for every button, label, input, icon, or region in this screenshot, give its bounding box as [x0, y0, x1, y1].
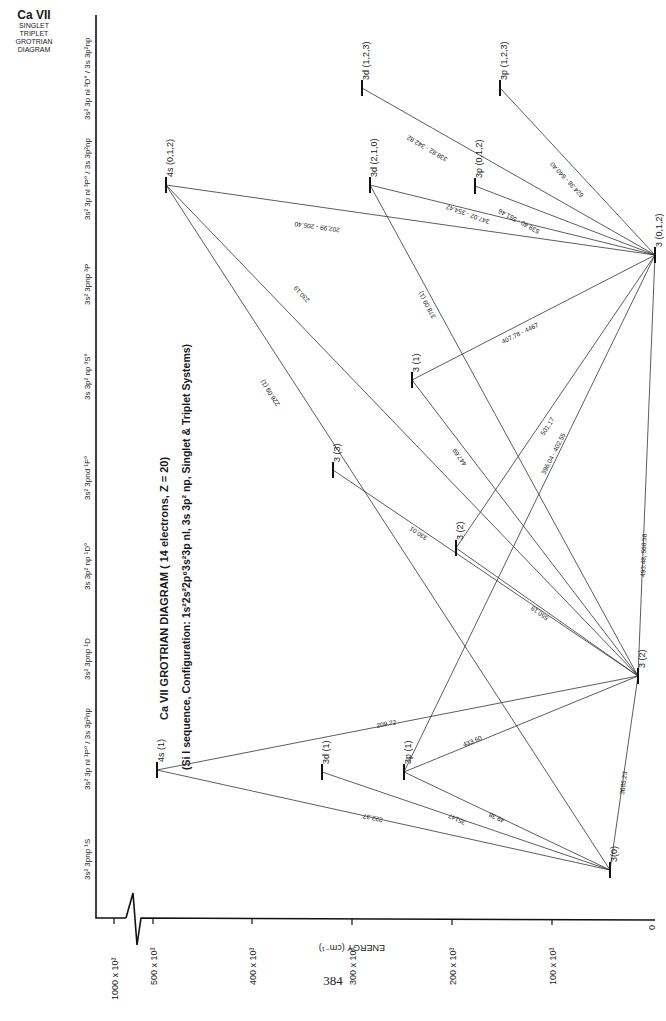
transition-label: 226.09 (1): [259, 378, 282, 407]
transition-label: 347.02 - 354.42: [445, 203, 491, 225]
level-label: 3d (2,1,0): [369, 138, 379, 177]
grotrian-diagram: 1000 x 10³ 500 x 10³ 400 x 10³ 300 x 10³…: [0, 0, 666, 1021]
column-header: 3s² 3pnp ¹D: [83, 638, 92, 680]
tick-0: 0: [647, 925, 657, 930]
level-label: 3p (1,2,3): [499, 41, 509, 80]
level-label: 3 (1): [411, 353, 421, 372]
level-label: 4s (1): [156, 739, 166, 762]
level-label: 3 (0,1,2): [654, 213, 664, 247]
transition-label: 222.37: [362, 813, 383, 824]
transition-label: 539.40 - 551.46: [497, 208, 541, 236]
transition-label: 49.38: [487, 811, 505, 824]
column-header: 3s² 3pnp ¹S: [83, 839, 92, 880]
column-header: 3s² 3p nl ¹P° / 3s 3p²np: [83, 708, 92, 790]
transition-label: 550.19: [529, 605, 550, 622]
title-line1: Ca VII GROTRIAN DIAGRAM ( 14 electrons, …: [158, 457, 170, 720]
column-header: 3s² 3pnp ³P: [83, 264, 92, 305]
energy-axis: [126, 893, 655, 945]
transition-label: 433.60: [462, 734, 483, 748]
column-header: 3s² 3p nl ³D° / 3s 3p²np: [83, 37, 92, 120]
transition-label: 624.38 - 640.40: [548, 161, 584, 199]
transition-label: 338.82 - 342.82: [405, 134, 448, 163]
level-label: 3(0): [609, 846, 619, 862]
title-line2: (Si I sequence, Configuration: 1s²2s²2p⁶…: [180, 344, 192, 770]
level-label: 3 (2): [637, 649, 647, 668]
transition-label: 209.72: [376, 718, 397, 729]
transition-label: 378.09 (1): [417, 290, 438, 320]
transition-label: 493.48, 568.58: [639, 533, 648, 577]
transition-label: 3685.23: [618, 771, 628, 796]
transition-label: 230.19: [292, 284, 311, 304]
level-label: 3d (1,2,3): [361, 41, 371, 80]
column-header: 3s 3p² np ¹D°: [83, 543, 92, 590]
page-number: 384: [0, 973, 666, 989]
level-label: 3 (3): [332, 443, 342, 462]
level-label: 3p (1): [403, 740, 413, 764]
level-label: 3p (0,1,2): [474, 139, 484, 178]
transition-label: 35147: [447, 812, 467, 826]
transition-label: 202.99 - 205.40: [294, 221, 340, 234]
level-label: 3 (2): [455, 521, 465, 540]
left-axis-line: [96, 15, 126, 918]
transition-label: 501.17: [539, 416, 556, 437]
axis-label: ENERGY (cm⁻¹): [319, 943, 385, 953]
level-label: 4s (0,1,2): [165, 139, 175, 177]
column-header: 3s² 3pnd ¹F°: [83, 456, 92, 500]
transition-label: 396.04 - 402.55: [540, 431, 567, 475]
column-header: 3s 3p² np ³S°: [83, 353, 92, 400]
level-label: 3d (1): [321, 740, 331, 764]
column-header: 3s² 3p nl ³P° / 3s 3p²np: [83, 138, 92, 220]
